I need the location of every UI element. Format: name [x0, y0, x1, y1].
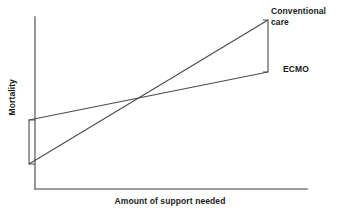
right-bracket [263, 20, 268, 72]
left-bracket [29, 120, 35, 164]
figure-root: Conventional care ECMO Amount of support… [0, 0, 352, 216]
conventional-care-line [29, 20, 268, 164]
ecmo-line [29, 72, 268, 120]
plot-canvas [0, 0, 352, 216]
ecmo-label: ECMO [283, 64, 343, 75]
x-axis-label: Amount of support needed [0, 196, 340, 207]
y-axis-label: Mortality [7, 67, 18, 127]
conventional-care-label: Conventional care [271, 6, 349, 27]
